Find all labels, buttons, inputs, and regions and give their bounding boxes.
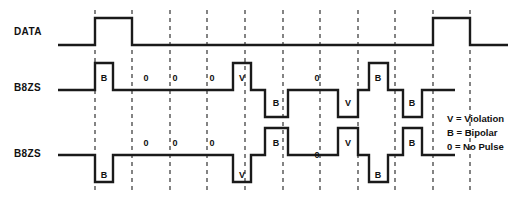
mark-b8zs2-cell8-violation: V [345, 138, 351, 148]
row-label-data: DATA [14, 26, 42, 37]
mark-b8zs2-cell5-violation: V [239, 170, 245, 180]
mark-b8zs1-cell4-nopulse: 0 [209, 73, 214, 83]
row-label-b8zs-first: B8ZS [14, 82, 41, 93]
b8zs-waveform-diagram: DATA B8ZS B8ZS B 0 0 0 V B 0 V B B B 0 0… [0, 0, 519, 201]
mark-b8zs2-cell6-bipolar: B [273, 138, 280, 148]
waveform-data [58, 18, 508, 45]
mark-b8zs2-cell1-bipolar: B [101, 170, 108, 180]
mark-b8zs2-cell10-bipolar: B [409, 138, 416, 148]
legend-item-nopulse: 0 = No Pulse [447, 140, 504, 154]
mark-b8zs1-cell5-violation: V [239, 73, 245, 83]
mark-b8zs1-cell1-bipolar: B [101, 73, 108, 83]
legend-item-bipolar: B = Bipolar [447, 126, 504, 140]
mark-b8zs2-cell9-bipolar: B [375, 170, 382, 180]
legend-item-violation: V = Violation [447, 112, 504, 126]
mark-b8zs2-cell2-nopulse: 0 [143, 138, 148, 148]
mark-b8zs1-cell2-nopulse: 0 [143, 73, 148, 83]
mark-b8zs1-cell9-bipolar: B [375, 73, 382, 83]
mark-b8zs2-cell4-nopulse: 0 [209, 138, 214, 148]
mark-b8zs1-cell7-nopulse: 0 [314, 73, 319, 83]
mark-b8zs2-cell3-nopulse: 0 [172, 138, 177, 148]
mark-b8zs2-cell7-nopulse: 0 [314, 150, 319, 160]
mark-b8zs1-cell8-violation: V [345, 98, 351, 108]
waveform-canvas [0, 0, 519, 201]
mark-b8zs1-cell3-nopulse: 0 [172, 73, 177, 83]
legend: V = Violation B = Bipolar 0 = No Pulse [447, 112, 504, 154]
mark-b8zs1-cell10-bipolar: B [409, 98, 416, 108]
row-label-b8zs-second: B8ZS [14, 148, 41, 159]
mark-b8zs1-cell6-bipolar: B [273, 98, 280, 108]
